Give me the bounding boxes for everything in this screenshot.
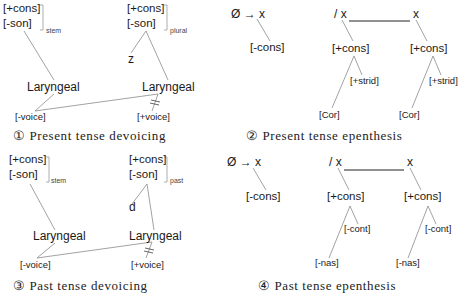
right-cont-feature: [-cont] <box>425 224 451 234</box>
past-son-feature: [-son] <box>129 169 158 181</box>
past-cons-feature: [+cons] <box>129 154 166 166</box>
voice-minus-feature: [-voice] <box>15 112 46 122</box>
stem-cons-feature: [+cons] <box>3 3 40 15</box>
laryngeal-node-left: Laryngeal <box>27 81 80 93</box>
panel-caption: ① Present tense devoicing <box>13 128 166 144</box>
left-cons-node: [+cons] <box>332 43 369 55</box>
panel-present-tense-epenthesis: Ø → x [-cons] / x x [+cons] [+strid] [Co… <box>231 0 462 148</box>
voice-minus-feature: [-voice] <box>20 260 51 270</box>
rule-lhs: Ø → x <box>231 8 265 20</box>
laryngeal-node-right: Laryngeal <box>129 230 182 242</box>
environment-left: / x <box>334 8 347 20</box>
panel-caption: ④ Past tense epenthesis <box>258 278 396 294</box>
right-cor-feature: [Cor] <box>399 110 420 120</box>
left-nas-feature: [-nas] <box>315 258 339 268</box>
left-cont-feature: [-cont] <box>344 224 370 234</box>
plural-cons-feature: [+cons] <box>127 3 164 15</box>
panel-caption: ③ Past tense devoicing <box>13 278 148 294</box>
panel-past-tense-epenthesis: Ø → x [-cons] / x x [+cons] [-cont] [-na… <box>231 148 462 296</box>
stem-subscript: stem <box>46 27 61 34</box>
environment-right: x <box>407 156 413 168</box>
panel-caption: ② Present tense epenthesis <box>246 128 402 144</box>
left-cor-feature: [Cor] <box>319 110 340 120</box>
environment-right: x <box>413 8 419 20</box>
voice-plus-feature: [+voice] <box>131 260 164 270</box>
stem-son-feature: [-son] <box>3 18 32 30</box>
panel-past-tense-devoicing: [+cons] [-son] stem [+cons] [-son] past … <box>0 148 231 296</box>
right-nas-feature: [-nas] <box>396 258 420 268</box>
panel-present-tense-devoicing: [+cons] [-son] stem [+cons] [-son] plura… <box>0 0 231 148</box>
inserted-cons-feature: [-cons] <box>250 42 285 54</box>
stem-subscript: stem <box>51 177 66 184</box>
inserted-cons-feature: [-cons] <box>246 191 281 203</box>
right-cons-node: [+cons] <box>410 43 447 55</box>
laryngeal-node-left: Laryngeal <box>33 230 86 242</box>
right-strid-feature: [+strid] <box>429 76 458 86</box>
stem-cons-feature: [+cons] <box>9 154 46 166</box>
right-cons-node: [+cons] <box>404 191 441 203</box>
past-subscript: past <box>170 177 183 184</box>
stem-son-feature: [-son] <box>9 169 38 181</box>
segment-d: d <box>129 201 136 213</box>
environment-left: / x <box>329 156 342 168</box>
segment-z: z <box>128 53 134 65</box>
rule-lhs: Ø → x <box>227 156 261 168</box>
plural-subscript: plural <box>170 27 187 34</box>
plural-son-feature: [-son] <box>127 18 156 30</box>
laryngeal-node-right: Laryngeal <box>142 81 195 93</box>
voice-plus-feature: [+voice] <box>137 112 170 122</box>
left-cons-node: [+cons] <box>327 191 364 203</box>
left-strid-feature: [+strid] <box>350 76 379 86</box>
